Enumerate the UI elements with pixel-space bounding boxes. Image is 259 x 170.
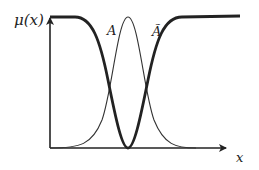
curve-a-complement-label: Ã <box>151 24 161 39</box>
x-axis-label: x <box>236 150 244 165</box>
membership-function-chart: μ(x) A Ã x <box>0 0 259 170</box>
curve-a <box>50 17 196 148</box>
y-axis-label: μ(x) <box>14 11 44 29</box>
curve-a-label: A <box>106 23 116 38</box>
